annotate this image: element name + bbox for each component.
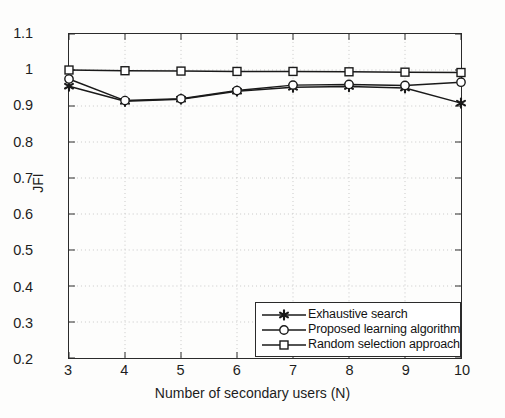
- chart-figure: 0.20.30.40.50.60.70.80.911.1 345678910 J…: [0, 0, 505, 418]
- legend-item-2[interactable]: Random selection approach: [260, 337, 455, 352]
- legend-marker-square-icon: [260, 338, 308, 352]
- legend-label-0: Exhaustive search: [308, 308, 408, 321]
- y-tick-label-0_5: 0.5: [13, 243, 33, 258]
- x-axis-title: Number of secondary users (N): [0, 385, 505, 401]
- legend-marker-star-icon: [260, 308, 308, 322]
- legend-item-1[interactable]: Proposed learning algorithm: [260, 322, 455, 337]
- y-tick-label-1: 1: [25, 62, 33, 77]
- legend-label-2: Random selection approach: [308, 338, 460, 351]
- y-tick-label-0_4: 0.4: [13, 280, 33, 295]
- y-axis-title: JFI: [30, 143, 46, 223]
- legend-label-1: Proposed learning algorithm: [308, 323, 460, 336]
- x-tick-label-4: 4: [104, 363, 144, 378]
- x-tick-label-6: 6: [217, 363, 257, 378]
- y-tick-label-1_1: 1.1: [13, 26, 33, 41]
- x-tick-label-5: 5: [161, 363, 201, 378]
- x-tick-label-9: 9: [386, 363, 426, 378]
- y-tick-label-0_3: 0.3: [13, 316, 33, 331]
- chart-legend: Exhaustive searchProposed learning algor…: [255, 302, 461, 357]
- series-2: [65, 66, 465, 76]
- x-tick-label-8: 8: [329, 363, 369, 378]
- x-tick-label-3: 3: [48, 363, 88, 378]
- y-tick-label-0_2: 0.2: [13, 352, 33, 367]
- legend-item-0[interactable]: Exhaustive search: [260, 307, 455, 322]
- legend-marker-circle-icon: [260, 323, 308, 337]
- y-tick-label-0_9: 0.9: [13, 98, 33, 113]
- x-tick-label-7: 7: [273, 363, 313, 378]
- x-tick-label-10: 10: [442, 363, 482, 378]
